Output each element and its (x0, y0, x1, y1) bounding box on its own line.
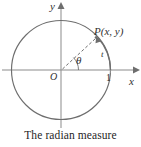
unit-tick-label: 1 (106, 73, 111, 83)
arc-length-label: t (101, 50, 104, 59)
radian-measure-figure: y x O 1 θ P(x, y) t The radian measure (0, 0, 141, 147)
figure-caption: The radian measure (0, 129, 141, 141)
x-axis-label: x (129, 76, 134, 87)
origin-label: O (50, 72, 57, 82)
y-axis-arrowhead (58, 2, 65, 9)
x-axis-arrowhead (133, 66, 140, 73)
arc-length-highlight (98, 38, 111, 70)
y-axis-label: y (50, 1, 55, 12)
angle-theta-label: θ (76, 55, 81, 66)
unit-circle-diagram (0, 0, 141, 130)
point-p-label: P(x, y) (94, 26, 123, 37)
